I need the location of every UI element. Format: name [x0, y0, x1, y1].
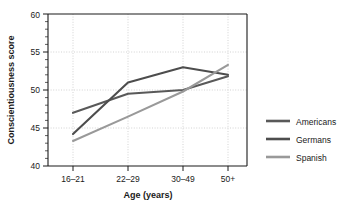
- line-chart-svg: 40 45 50 55 60 16–21 22–29 30–49 50+ Age…: [0, 0, 361, 203]
- ytick-label-45: 45: [31, 123, 41, 133]
- y-axis-title: Conscientiousness score: [6, 35, 16, 144]
- xtick-label-3: 50+: [221, 174, 235, 184]
- xtick-label-2: 30–49: [171, 174, 195, 184]
- xtick-label-0: 16–21: [61, 174, 85, 184]
- legend-label-germans: Germans: [296, 135, 331, 145]
- chart-background: [0, 0, 361, 203]
- ytick-label-60: 60: [31, 10, 41, 20]
- ytick-label-50: 50: [31, 85, 41, 95]
- ytick-label-55: 55: [31, 47, 41, 57]
- xtick-label-1: 22–29: [116, 174, 140, 184]
- chart-figure: 40 45 50 55 60 16–21 22–29 30–49 50+ Age…: [0, 0, 361, 203]
- legend-label-spanish: Spanish: [296, 153, 327, 163]
- legend-label-americans: Americans: [296, 117, 336, 127]
- ytick-label-40: 40: [31, 161, 41, 171]
- x-axis-title: Age (years): [123, 190, 172, 200]
